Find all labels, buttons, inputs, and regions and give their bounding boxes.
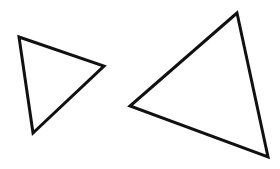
large-triangle (130, 13, 268, 157)
diagram-canvas (0, 0, 280, 169)
small-triangle (19, 37, 104, 133)
